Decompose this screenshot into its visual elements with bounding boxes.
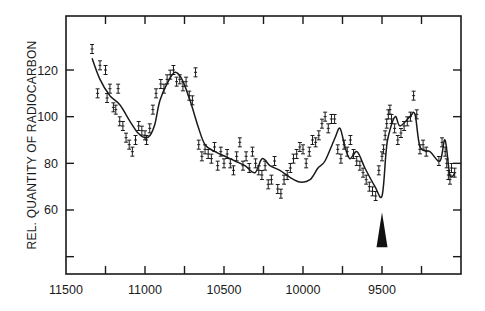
x-tick-label: 11000: [128, 283, 162, 297]
x-tick-label: 11500: [49, 283, 83, 297]
data-point: [238, 138, 242, 147]
data-point: [377, 166, 381, 175]
data-point: [254, 159, 258, 168]
data-point: [216, 161, 220, 170]
plot-frame: [66, 16, 461, 274]
data-point: [269, 175, 273, 184]
data-point: [301, 145, 305, 154]
data-point: [396, 135, 400, 144]
x-tick-label: 10000: [286, 283, 321, 297]
data-point: [127, 140, 131, 149]
data-point: [348, 135, 352, 144]
data-point: [116, 84, 120, 93]
data-point: [96, 89, 100, 98]
data-point: [130, 147, 134, 156]
data-point: [336, 145, 340, 154]
data-point: [244, 152, 248, 161]
data-point: [134, 135, 138, 144]
data-point: [383, 131, 387, 140]
data-point: [304, 159, 308, 168]
y-tick-label: 80: [44, 157, 58, 171]
data-point: [358, 161, 362, 170]
data-point: [339, 154, 343, 163]
data-point: [121, 121, 125, 130]
data-point: [273, 156, 277, 165]
data-point: [424, 147, 428, 156]
data-point: [295, 149, 299, 158]
data-point: [333, 114, 337, 123]
data-point: [235, 152, 239, 161]
radiocarbon-chart: 115001100010500100009500 6080100120 REL.…: [0, 0, 485, 311]
data-point: [314, 138, 318, 147]
data-point: [104, 66, 108, 75]
data-point: [154, 89, 158, 98]
data-point: [98, 61, 102, 70]
data-point: [326, 124, 330, 133]
data-point: [320, 119, 324, 128]
data-point: [374, 191, 378, 200]
x-tick-label: 9500: [368, 283, 396, 297]
data-point: [222, 159, 226, 168]
data-point: [385, 119, 389, 128]
y-axis-title: REL. QUANTITY OF RADIOCARBON: [25, 41, 39, 250]
data-point: [148, 124, 152, 133]
data-point: [124, 133, 128, 142]
data-point: [250, 147, 254, 156]
data-point: [197, 140, 201, 149]
y-axis: 6080100120: [37, 64, 461, 257]
data-point: [279, 189, 283, 198]
data-point: [90, 45, 94, 54]
data-point: [393, 124, 397, 133]
data-point: [329, 114, 333, 123]
data-point: [399, 128, 403, 137]
data-point: [260, 170, 264, 179]
data-point: [310, 135, 314, 144]
annotation-arrow: [377, 212, 388, 247]
y-tick-label: 60: [44, 203, 58, 217]
data-point: [175, 77, 179, 86]
x-tick-label: 10500: [207, 283, 242, 297]
data-point: [364, 175, 368, 184]
data-point: [231, 166, 235, 175]
arrow-up-icon: [377, 212, 388, 247]
data-point: [108, 84, 112, 93]
data-point: [209, 154, 213, 163]
data-point: [194, 68, 198, 77]
data-layer: [90, 45, 457, 201]
data-point: [151, 105, 155, 114]
plot-area: [66, 16, 461, 274]
data-point: [361, 168, 365, 177]
data-point: [114, 105, 118, 114]
data-point: [298, 142, 302, 151]
data-point: [317, 131, 321, 140]
data-point: [111, 103, 115, 112]
data-point: [412, 91, 416, 100]
data-point: [307, 147, 311, 156]
y-tick-label: 100: [37, 110, 58, 124]
data-point: [288, 163, 292, 172]
smoothed-curve-line: [92, 58, 455, 197]
data-point: [200, 152, 204, 161]
y-tick-label: 120: [37, 64, 58, 78]
data-point: [323, 112, 327, 121]
data-point: [421, 140, 425, 149]
